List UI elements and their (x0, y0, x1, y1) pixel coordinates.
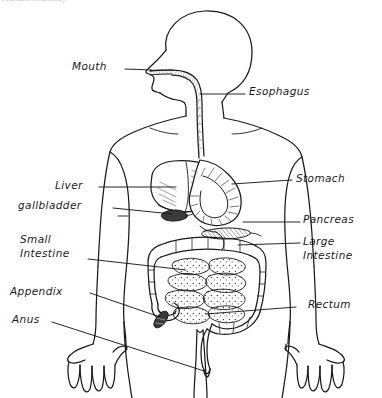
leader-appendix (90, 293, 160, 317)
organ-esophagus (172, 70, 204, 158)
label-mouth: Mouth (72, 60, 107, 73)
label-large-intestine-line1: Large (303, 234, 353, 248)
label-stomach: Stomach (296, 172, 345, 185)
label-anus: Anus (12, 313, 40, 326)
label-pancreas: Pancreas (303, 213, 354, 226)
organ-stomach (189, 160, 241, 232)
label-large-intestine: Large Intestine (303, 234, 353, 262)
digestive-system-figure: Human Anatomy (0, 0, 382, 398)
leader-large-intestine (238, 243, 300, 245)
leader-small-intestine (88, 259, 186, 270)
label-esophagus: Esophagus (249, 85, 310, 98)
label-gallbladder: gallbladder (18, 199, 81, 212)
leader-stomach (232, 180, 292, 184)
organ-small-intestine (165, 232, 246, 324)
label-appendix: Appendix (10, 285, 63, 298)
label-liver: Liver (55, 179, 83, 192)
organ-appendix (154, 311, 168, 328)
label-large-intestine-line2: Intestine (303, 248, 353, 262)
label-small-intestine-line2: Intestine (20, 246, 70, 260)
organ-mouth (150, 70, 172, 75)
leader-anus (52, 322, 204, 371)
label-small-intestine: Small Intestine (20, 232, 70, 260)
label-small-intestine-line1: Small (20, 232, 70, 246)
label-rectum: Rectum (308, 298, 351, 311)
leader-gallbladder (113, 208, 172, 214)
